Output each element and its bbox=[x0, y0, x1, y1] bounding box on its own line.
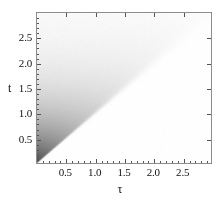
y-axis-minor-tick bbox=[37, 130, 39, 131]
x-axis-minor-tick bbox=[60, 161, 61, 163]
y-axis-minor-tick bbox=[37, 99, 39, 100]
x-axis-tick-label: 2.0 bbox=[147, 166, 160, 178]
x-axis-minor-tick bbox=[113, 161, 114, 163]
y-axis-minor-tick bbox=[37, 109, 39, 110]
x-axis-minor-tick bbox=[178, 161, 179, 163]
y-axis-minor-tick bbox=[37, 48, 39, 49]
x-axis-minor-tick bbox=[207, 161, 208, 163]
x-axis-major-tick bbox=[154, 159, 155, 163]
y-axis-minor-tick bbox=[37, 84, 39, 85]
y-axis-tick-label: 1.5 bbox=[8, 82, 32, 94]
x-axis-minor-tick bbox=[55, 161, 56, 163]
x-axis-minor-tick bbox=[195, 161, 196, 163]
y-axis-minor-tick bbox=[37, 150, 39, 151]
x-axis-minor-tick bbox=[148, 161, 149, 163]
x-axis-minor-tick bbox=[90, 161, 91, 163]
y-axis-minor-tick bbox=[37, 145, 39, 146]
x-axis-minor-tick bbox=[84, 161, 85, 163]
y-axis-minor-tick bbox=[37, 155, 39, 156]
y-axis-tick-label: 1.0 bbox=[8, 107, 32, 119]
x-axis-minor-tick bbox=[166, 161, 167, 163]
y-axis-minor-tick bbox=[37, 119, 39, 120]
y-axis-tick-label: 2.5 bbox=[8, 31, 32, 43]
y-axis-major-tick-right bbox=[207, 114, 211, 115]
density-plot-figure: 0.51.01.52.02.5 0.51.01.52.02.5 τ t bbox=[0, 0, 221, 205]
y-axis-major-tick bbox=[37, 64, 41, 65]
y-axis-minor-tick bbox=[37, 54, 39, 55]
x-axis-minor-tick bbox=[201, 161, 202, 163]
y-axis-major-tick-right bbox=[207, 140, 211, 141]
x-axis-minor-tick bbox=[137, 161, 138, 163]
y-axis-minor-tick bbox=[37, 43, 39, 44]
x-axis-minor-tick bbox=[119, 161, 120, 163]
y-axis-major-tick-right bbox=[207, 64, 211, 65]
x-axis-major-tick-top bbox=[154, 13, 155, 17]
y-axis-minor-tick bbox=[37, 79, 39, 80]
y-axis-minor-tick bbox=[37, 28, 39, 29]
x-axis-tick-label: 0.5 bbox=[59, 166, 72, 178]
x-axis-minor-tick bbox=[131, 161, 132, 163]
x-axis-major-tick-top bbox=[125, 13, 126, 17]
x-axis-minor-tick bbox=[107, 161, 108, 163]
y-axis-minor-tick bbox=[37, 135, 39, 136]
x-axis-minor-tick bbox=[102, 161, 103, 163]
y-axis-minor-tick bbox=[37, 160, 39, 161]
y-axis-minor-tick bbox=[37, 23, 39, 24]
x-axis-minor-tick bbox=[190, 161, 191, 163]
x-axis-minor-tick bbox=[43, 161, 44, 163]
y-axis-major-tick bbox=[37, 114, 41, 115]
x-axis-minor-tick bbox=[78, 161, 79, 163]
x-axis-tick-label: 1.5 bbox=[117, 166, 130, 178]
y-axis-minor-tick bbox=[37, 94, 39, 95]
y-axis-tick-label: 2.0 bbox=[8, 57, 32, 69]
y-axis-major-tick-right bbox=[207, 89, 211, 90]
y-axis-tick-label: 0.5 bbox=[8, 133, 32, 145]
y-axis-minor-tick bbox=[37, 124, 39, 125]
x-axis-title: τ bbox=[118, 182, 123, 197]
x-axis-minor-tick bbox=[160, 161, 161, 163]
x-axis-major-tick bbox=[66, 159, 67, 163]
y-axis-title: t bbox=[8, 81, 11, 96]
y-axis-minor-tick bbox=[37, 104, 39, 105]
x-axis-tick-label: 1.0 bbox=[88, 166, 101, 178]
y-axis-major-tick bbox=[37, 38, 41, 39]
density-heatmap-canvas bbox=[37, 13, 211, 163]
y-axis-major-tick-right bbox=[207, 38, 211, 39]
y-axis-minor-tick bbox=[37, 59, 39, 60]
y-axis-minor-tick bbox=[37, 74, 39, 75]
x-axis-major-tick-top bbox=[96, 13, 97, 17]
y-axis-minor-tick bbox=[37, 18, 39, 19]
x-axis-tick-label: 2.5 bbox=[176, 166, 189, 178]
y-axis-minor-tick bbox=[37, 69, 39, 70]
y-axis-major-tick bbox=[37, 89, 41, 90]
x-axis-major-tick bbox=[125, 159, 126, 163]
x-axis-major-tick bbox=[184, 159, 185, 163]
plot-frame bbox=[36, 12, 212, 164]
x-axis-major-tick-top bbox=[184, 13, 185, 17]
x-axis-minor-tick bbox=[72, 161, 73, 163]
x-axis-major-tick-top bbox=[66, 13, 67, 17]
y-axis-minor-tick bbox=[37, 33, 39, 34]
x-axis-major-tick bbox=[96, 159, 97, 163]
x-axis-minor-tick bbox=[49, 161, 50, 163]
x-axis-minor-tick bbox=[143, 161, 144, 163]
x-axis-minor-tick bbox=[172, 161, 173, 163]
y-axis-major-tick bbox=[37, 140, 41, 141]
